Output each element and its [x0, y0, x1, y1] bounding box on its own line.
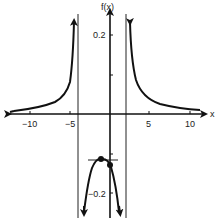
- y-intercept-point: [107, 162, 113, 168]
- y-axis-label: f(x): [101, 2, 114, 12]
- x-axis-label: x: [210, 109, 215, 119]
- x-tick-label: −5: [65, 119, 75, 129]
- x-tick-label: −10: [22, 119, 37, 129]
- curve-right-branch: [130, 22, 200, 110]
- function-graph: f(x) x −10 −5 5 10 0.2 −0.2: [0, 0, 217, 220]
- curve-middle-branch: [84, 159, 119, 212]
- curve-left-branch: [14, 22, 74, 111]
- y-tick-label: 0.2: [93, 30, 106, 40]
- curve-left-tail: [10, 111, 14, 112]
- local-max-point: [98, 156, 104, 162]
- x-tick-label: 5: [146, 119, 151, 129]
- x-tick-label: 10: [185, 119, 195, 129]
- y-tick-label: −0.2: [88, 189, 106, 199]
- arrow-down-right: [119, 206, 120, 213]
